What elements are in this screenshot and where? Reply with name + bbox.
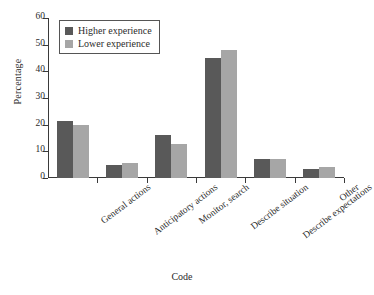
y-tick-label: 50 [36, 38, 46, 48]
bar [270, 159, 286, 178]
y-tick-label: 0 [40, 171, 45, 181]
y-tick-label: 30 [36, 91, 46, 101]
y-tick-label: 20 [36, 118, 46, 128]
x-tick-mark [344, 178, 345, 183]
x-category-label: Describe expectations [301, 182, 374, 240]
y-tick-label: 10 [36, 144, 46, 154]
bar [171, 144, 187, 178]
bar [221, 50, 237, 178]
x-tick-mark [196, 178, 197, 183]
bar [319, 167, 335, 178]
legend-swatch-lower-icon [65, 40, 73, 48]
bar-group [254, 18, 286, 178]
legend-item-lower: Lower experience [65, 37, 152, 50]
chart-legend: Higher experience Lower experience [59, 20, 160, 54]
bar [73, 125, 89, 178]
legend-label-lower: Lower experience [78, 38, 150, 50]
bar-group [205, 18, 237, 178]
legend-label-higher: Higher experience [78, 25, 152, 37]
x-axis-title: Code [0, 271, 364, 282]
legend-item-higher: Higher experience [65, 24, 152, 37]
x-tick-mark [295, 178, 296, 183]
y-tick-label: 60 [36, 11, 46, 21]
x-category-label: General actions [99, 182, 152, 226]
bar [155, 135, 171, 178]
y-tick-label: 40 [36, 64, 46, 74]
x-tick-mark [97, 178, 98, 183]
bar [254, 159, 270, 178]
y-axis-line [48, 18, 49, 178]
x-category-label: Describe situation [249, 182, 310, 231]
legend-swatch-higher-icon [65, 27, 73, 35]
bar-group [155, 18, 187, 178]
y-axis-title: Percentage [12, 32, 23, 132]
bar [205, 58, 221, 178]
bar-group [303, 18, 335, 178]
bar [122, 163, 138, 178]
bar [57, 121, 73, 178]
bar [106, 165, 122, 178]
bar [303, 169, 319, 178]
